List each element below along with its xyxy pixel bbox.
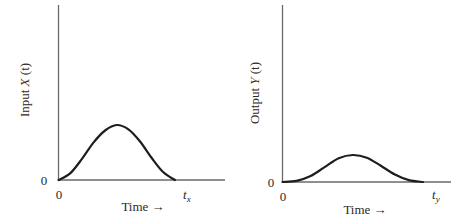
x-tick-label-0: 0 xyxy=(56,187,63,202)
x-axis-label: Time → xyxy=(343,202,386,217)
y-axis-label: Input X (t) xyxy=(17,63,32,117)
y-tick-label-0: 0 xyxy=(268,175,275,190)
figure: 0 0 tx Time → Input X (t) 0 0 ty Time → … xyxy=(0,0,474,224)
x-end-label: tx xyxy=(183,187,191,204)
input-chart: 0 0 tx Time → Input X (t) xyxy=(17,5,225,214)
output-chart: 0 0 ty Time → Output Y (t) xyxy=(247,5,451,217)
x-tick-label-0: 0 xyxy=(280,189,287,204)
x-end-label: ty xyxy=(432,187,440,204)
y-tick-label-0: 0 xyxy=(41,173,48,188)
series-line-input xyxy=(59,125,176,180)
x-axis-label: Time → xyxy=(121,199,164,214)
series-line-output xyxy=(283,155,424,182)
y-axis-label: Output Y (t) xyxy=(247,62,262,124)
